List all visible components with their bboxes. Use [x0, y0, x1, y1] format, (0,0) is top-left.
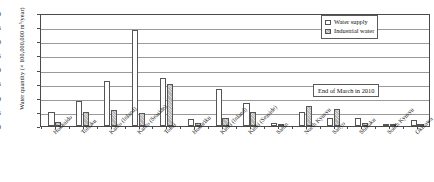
legend-label-water-supply: Water supply [334, 19, 368, 25]
x-tick-mark [222, 126, 223, 129]
bar-water-supply [104, 81, 110, 126]
bar-industrial-water [278, 124, 284, 126]
bar-industrial-water [111, 110, 117, 126]
bar-water-supply [411, 120, 417, 126]
x-tick-mark [139, 126, 140, 129]
bar-industrial-water [195, 123, 201, 126]
bar-industrial-water [167, 84, 173, 126]
bar-water-supply [299, 112, 305, 126]
bar-industrial-water [139, 113, 145, 126]
legend-item-industrial-water: Industrial water [325, 27, 374, 36]
bar-water-supply [48, 112, 54, 126]
bar-water-supply [383, 124, 389, 126]
bar-water-supply [327, 118, 333, 126]
x-tick-mark [417, 126, 418, 129]
bar-industrial-water [390, 124, 396, 126]
bar-industrial-water [222, 118, 228, 126]
bar-industrial-water [83, 112, 89, 126]
x-tick-mark [320, 126, 321, 129]
x-tick-mark [152, 126, 153, 129]
y-tick-label: 0 [0, 124, 1, 130]
bar-water-supply [271, 123, 277, 126]
x-tick-mark [166, 126, 167, 129]
x-tick-mark [55, 126, 56, 129]
x-tick-mark [292, 126, 293, 129]
chart-legend: Water supply Industrial water [321, 15, 378, 39]
legend-label-industrial-water: Industrial water [334, 28, 374, 34]
bar-water-supply [132, 30, 138, 126]
x-tick-mark [69, 126, 70, 129]
x-tick-mark [389, 126, 390, 129]
x-tick-mark [41, 126, 42, 129]
bar-industrial-water [417, 124, 423, 126]
x-tick-mark [111, 126, 112, 129]
x-tick-mark [208, 126, 209, 129]
bar-industrial-water [362, 123, 368, 126]
bar-chart-figure: Water quantity (× 100,000,000 m³/year) 0… [0, 0, 434, 182]
y-tick-label: 15 [0, 81, 1, 87]
y-tick-label: 40 [0, 11, 1, 17]
y-tick-label: 5 [0, 110, 1, 116]
bar-water-supply [243, 103, 249, 126]
bar-water-supply [216, 89, 222, 126]
x-tick-mark [194, 126, 195, 129]
y-tick-mark [37, 127, 40, 128]
y-tick-label: 25 [0, 53, 1, 59]
x-tick-mark [264, 126, 265, 129]
bar-water-supply [160, 78, 166, 126]
x-tick-mark [97, 126, 98, 129]
bar-industrial-water [334, 109, 340, 126]
x-tick-mark [125, 126, 126, 129]
x-tick-mark [403, 126, 404, 129]
bar-water-supply [355, 118, 361, 126]
legend-item-water-supply: Water supply [325, 18, 374, 27]
bar-industrial-water [250, 112, 256, 126]
x-tick-mark [334, 126, 335, 129]
legend-swatch-industrial-water [325, 29, 331, 34]
y-tick-label: 10 [0, 96, 1, 102]
x-tick-mark [306, 126, 307, 129]
x-tick-mark [250, 126, 251, 129]
bar-industrial-water [55, 122, 61, 126]
x-tick-mark [83, 126, 84, 129]
x-tick-mark [361, 126, 362, 129]
x-tick-mark [278, 126, 279, 129]
x-tick-mark [375, 126, 376, 129]
chart-annotation-note: End of March in 2010 [313, 84, 379, 97]
x-tick-mark [180, 126, 181, 129]
bar-water-supply [188, 119, 194, 126]
bar-water-supply [76, 101, 82, 126]
bar-industrial-water [306, 106, 312, 126]
y-tick-label: 20 [0, 67, 1, 73]
x-tick-mark [347, 126, 348, 129]
y-tick-label: 30 [0, 39, 1, 45]
x-tick-mark [236, 126, 237, 129]
legend-swatch-water-supply [325, 20, 331, 25]
y-tick-label: 35 [0, 25, 1, 31]
